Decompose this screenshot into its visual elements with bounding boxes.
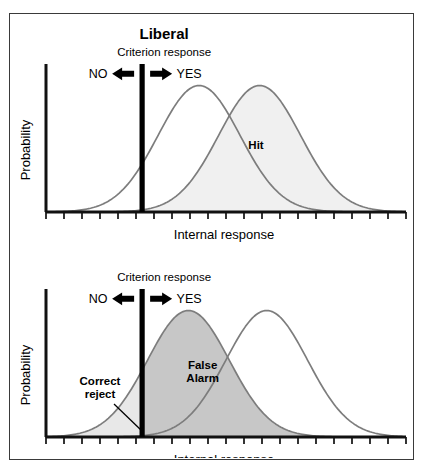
correct-reject-annotation-line2: reject <box>85 388 116 400</box>
arrow-left-icon <box>112 67 134 80</box>
criterion-response-label: Criterion response <box>117 271 211 283</box>
arrow-right-icon <box>150 67 172 80</box>
hit-annotation: Hit <box>248 139 264 151</box>
x-axis-label: Internal response <box>174 227 274 242</box>
top-panel: LiberalCriterion responseNOYESProbabilit… <box>18 25 406 242</box>
panel-title: Liberal <box>140 25 189 42</box>
false-alarm-annotation-line1: False <box>188 359 217 371</box>
no-label: NO <box>89 67 108 81</box>
signal-detection-chart: LiberalCriterion responseNOYESProbabilit… <box>10 14 412 458</box>
x-axis-ticks <box>46 212 406 219</box>
x-axis-label: Internal response <box>174 452 274 458</box>
x-axis-ticks <box>46 437 406 444</box>
false-alarm-annotation-line2: Alarm <box>186 372 219 384</box>
figure-frame: LiberalCriterion responseNOYESProbabilit… <box>9 13 414 460</box>
arrow-right-icon <box>150 292 172 305</box>
criterion-line <box>140 64 145 212</box>
criterion-line <box>140 289 145 437</box>
no-label: NO <box>89 292 108 306</box>
yes-label: YES <box>177 292 202 306</box>
arrow-left-icon <box>112 292 134 305</box>
criterion-response-label: Criterion response <box>117 46 211 58</box>
figure-root: LiberalCriterion responseNOYESProbabilit… <box>0 0 425 475</box>
yes-label: YES <box>177 67 202 81</box>
y-axis-label: Probability <box>18 344 33 405</box>
bottom-panel: Criterion responseNOYESProbabilityIntern… <box>18 271 406 458</box>
correct-reject-annotation-line1: Correct <box>80 375 121 387</box>
false-alarm-region-fill <box>142 311 402 437</box>
y-axis-label: Probability <box>18 119 33 180</box>
